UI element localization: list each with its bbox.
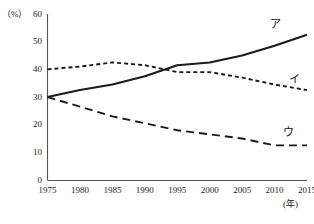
series-paths [48,35,308,146]
series-line-ウ [48,97,308,145]
axis-lines [48,14,308,181]
line-chart: （%） (年) 6050403020100 197519801985199019… [0,0,314,224]
series-line-ア [48,35,308,97]
series-line-イ [48,62,308,90]
plot-area [0,0,314,224]
